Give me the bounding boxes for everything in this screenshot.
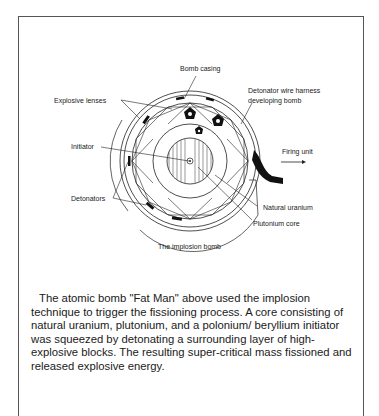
label-plutonium-core: Plutonium core xyxy=(253,220,300,227)
figure-caption: The implosion bomb xyxy=(0,243,379,250)
label-firing-unit: Firing unit xyxy=(282,148,313,156)
label-detonator-harness-2: developing bomb xyxy=(248,97,301,105)
description-paragraph: The atomic bomb "Fat Man" above used the… xyxy=(31,292,361,373)
label-initiator: Initiator xyxy=(71,143,95,150)
label-bomb-casing: Bomb casing xyxy=(180,65,221,73)
description-text: The atomic bomb "Fat Man" above used the… xyxy=(31,292,352,372)
label-natural-uranium: Natural uranium xyxy=(263,204,313,211)
label-detonators: Detonators xyxy=(71,195,106,202)
label-explosive-lenses: Explosive lenses xyxy=(54,97,107,105)
label-detonator-harness-1: Detonator wire harness xyxy=(248,87,321,94)
implosion-bomb-diagram: Bomb casing Explosive lenses Detonator w… xyxy=(0,0,379,260)
